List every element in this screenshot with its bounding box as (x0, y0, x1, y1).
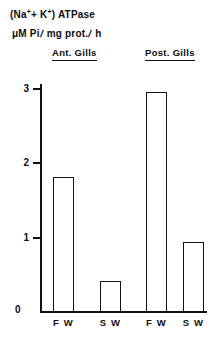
y-axis-line (40, 84, 42, 313)
y-axis-tick-2: 2 (33, 162, 41, 164)
bar-post-gills-sw[interactable] (183, 242, 204, 311)
y-axis-tick-label-2: 2 (23, 158, 29, 168)
chart-title-line-1: (Na++ K+) ATPase (10, 10, 95, 20)
title-suffix: ) ATPase (52, 9, 95, 20)
units-numerator: μM Pi (12, 28, 40, 39)
x-axis-label-ant-sw: S W (100, 318, 122, 328)
units-denominator-1: mg prot. (47, 28, 89, 39)
x-axis-label-ant-fw: F W (53, 318, 74, 328)
y-axis-tick-label-3: 3 (23, 84, 29, 94)
group-header-anterior-gills: Ant. Gills (52, 48, 97, 61)
bar-ant-gills-sw[interactable] (100, 281, 121, 311)
y-axis-tick-label-1: 1 (23, 233, 29, 243)
units-denominator-2: h (95, 28, 101, 39)
chart-figure: (Na++ K+) ATPase μM Pi/ mg prot./ h Ant.… (0, 0, 223, 347)
bar-ant-gills-fw[interactable] (53, 177, 74, 311)
y-axis-tick-1: 1 (33, 237, 41, 239)
bar-post-gills-fw[interactable] (146, 92, 167, 311)
y-axis-tick-label-0: 0 (15, 305, 21, 315)
x-axis-label-post-sw: S W (183, 318, 205, 328)
title-middle: + K (31, 9, 47, 20)
title-prefix: (Na (10, 9, 27, 20)
y-axis-tick-3: 3 (33, 88, 41, 90)
x-axis-label-post-fw: F W (146, 318, 167, 328)
chart-title-line-2: μM Pi/ mg prot./ h (12, 29, 102, 39)
group-header-posterior-gills: Post. Gills (145, 48, 195, 61)
slash-icon: / (87, 29, 93, 39)
x-axis-line (40, 311, 207, 313)
